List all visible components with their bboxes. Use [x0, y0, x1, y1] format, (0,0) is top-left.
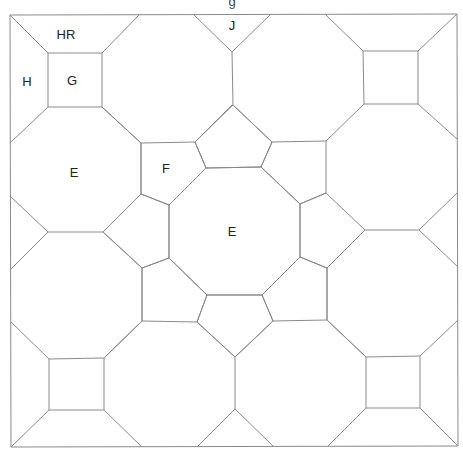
j-left	[194, 15, 232, 52]
oct-upright-diag	[233, 105, 272, 142]
bl-sq-diag-a	[11, 322, 49, 359]
left-tri-b	[10, 232, 48, 270]
oct-bottom-diag-r	[235, 321, 273, 357]
quad-f-top-right	[261, 141, 326, 204]
region-label-e1: E	[70, 165, 79, 180]
bl-sq-diag-c	[11, 410, 49, 447]
oct-left-lower-diag	[103, 232, 142, 268]
tr-sq-diag-c	[326, 104, 364, 141]
square-bottom-left	[49, 358, 104, 410]
quad-f-bottom-left	[142, 258, 207, 322]
oct-upleft-diag2	[195, 105, 232, 142]
tr-sq-diag-d	[418, 104, 457, 139]
quad-f-top-left	[141, 142, 206, 205]
br-sq-diag-b	[420, 320, 458, 356]
oct-bottom-diag-l2	[197, 322, 235, 357]
region-label-j: J	[229, 18, 236, 33]
tr-sq-diag-a	[325, 14, 363, 51]
pentagon-left	[103, 194, 169, 268]
region-label-hr: HR	[57, 27, 76, 42]
b-tri-left	[197, 409, 235, 447]
pentagon-bottom	[197, 295, 273, 357]
region-label-f: F	[162, 161, 170, 176]
oct-bottom-diag-l	[104, 321, 142, 358]
tl-sq-diag-a	[10, 15, 48, 53]
square-bottom-right	[366, 356, 420, 408]
br-sq-diag-d	[420, 408, 458, 446]
oct-upleft-diag	[102, 107, 141, 143]
pentagon-top	[195, 105, 272, 168]
right-tri-b	[419, 230, 457, 266]
bl-sq-diag-d	[104, 410, 142, 447]
oct-left-upper-diag	[103, 194, 141, 232]
right-tri-a	[419, 193, 457, 230]
left-tri-a	[10, 196, 48, 232]
quad-f-bottom-right	[262, 257, 327, 321]
square-top-right	[363, 51, 418, 104]
region-label-g: G	[67, 73, 77, 88]
br-sq-diag-c	[328, 408, 366, 446]
tr-sq-diag-b	[418, 14, 457, 51]
tl-sq-diag-c	[10, 107, 48, 143]
pentagon-right	[300, 193, 365, 268]
b-tri-right	[235, 409, 273, 446]
cutoff-title-text: g	[228, 0, 235, 9]
j-stem	[232, 52, 233, 105]
oct-bottom-diag-r2	[327, 320, 366, 357]
tl-sq-diag-b	[102, 15, 139, 53]
region-label-e2: E	[228, 224, 237, 239]
region-label-h: H	[22, 74, 31, 89]
j-right	[232, 15, 270, 52]
